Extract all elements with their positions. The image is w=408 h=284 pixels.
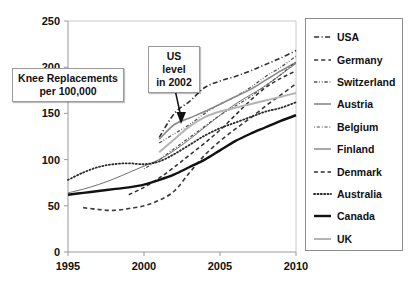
legend-label: UK bbox=[337, 233, 352, 245]
legend-item-canada[interactable]: Canada bbox=[306, 205, 402, 227]
legend-label: Austria bbox=[337, 98, 373, 110]
legend-item-denmark[interactable]: Denmark bbox=[306, 160, 402, 182]
legend-label: USA bbox=[337, 31, 359, 43]
legend-item-australia[interactable]: Australia bbox=[306, 183, 402, 205]
legend-swatch-icon bbox=[313, 98, 332, 110]
legend-label: Denmark bbox=[337, 166, 382, 178]
y-axis-tick-label: 100 bbox=[42, 154, 60, 166]
y-axis-tick-label: 150 bbox=[42, 107, 60, 119]
legend-label: Switzerland bbox=[337, 76, 395, 88]
y-axis-tick-label: 250 bbox=[42, 15, 60, 27]
legend-swatch-icon bbox=[313, 121, 332, 133]
us-level-callout-box: US level in 2002 bbox=[148, 46, 200, 93]
legend-label: Canada bbox=[337, 210, 375, 222]
x-axis-tick-group: 1995200020052010 bbox=[56, 252, 308, 272]
axis-title-line1: Knee Replacements bbox=[18, 72, 118, 85]
legend-label: Finland bbox=[337, 143, 374, 155]
legend-item-usa[interactable]: USA bbox=[306, 26, 402, 48]
callout-line1: US level bbox=[154, 50, 194, 76]
x-axis-tick-label: 2005 bbox=[208, 260, 232, 272]
callout-line2: in 2002 bbox=[154, 76, 194, 89]
legend-swatch-icon bbox=[313, 54, 332, 66]
y-axis-tick-label: 0 bbox=[54, 246, 60, 258]
legend-swatch-icon bbox=[313, 188, 332, 200]
y-axis-tick-label: 50 bbox=[48, 200, 60, 212]
y-axis-title-box: Knee Replacements per 100,000 bbox=[12, 68, 124, 102]
legend-swatch-icon bbox=[313, 166, 332, 178]
chart-figure: 050100150200250 1995200020052010 Knee Re… bbox=[0, 0, 408, 284]
legend-label: Australia bbox=[337, 188, 382, 200]
legend-swatch-icon bbox=[313, 233, 332, 245]
x-axis-tick-label: 2010 bbox=[284, 260, 308, 272]
legend-item-uk[interactable]: UK bbox=[306, 228, 402, 250]
legend-item-belgium[interactable]: Belgium bbox=[306, 116, 402, 138]
y-axis-tick-group: 050100150200250 bbox=[42, 15, 68, 258]
chart-legend: USAGermanySwitzerlandAustriaBelgiumFinla… bbox=[305, 18, 403, 251]
x-axis-tick-label: 2000 bbox=[132, 260, 156, 272]
axis-title-line2: per 100,000 bbox=[18, 85, 118, 98]
legend-swatch-icon bbox=[313, 210, 332, 222]
legend-swatch-icon bbox=[313, 143, 332, 155]
legend-item-finland[interactable]: Finland bbox=[306, 138, 402, 160]
x-axis-tick-label: 1995 bbox=[56, 260, 80, 272]
legend-label: Belgium bbox=[337, 121, 378, 133]
legend-item-switzerland[interactable]: Switzerland bbox=[306, 71, 402, 93]
legend-item-germany[interactable]: Germany bbox=[306, 48, 402, 70]
legend-swatch-icon bbox=[313, 76, 332, 88]
legend-swatch-icon bbox=[313, 31, 332, 43]
series-line-germany bbox=[83, 84, 296, 211]
legend-item-austria[interactable]: Austria bbox=[306, 93, 402, 115]
legend-label: Germany bbox=[337, 54, 383, 66]
